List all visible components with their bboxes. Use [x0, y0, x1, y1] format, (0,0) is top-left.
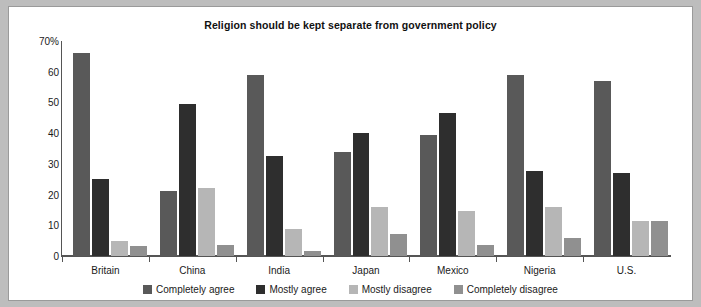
legend-swatch-icon [454, 285, 463, 294]
bar [371, 207, 388, 256]
legend-item[interactable]: Mostly agree [256, 284, 326, 295]
bar [613, 173, 630, 256]
x-axis-tick-mark [409, 256, 410, 262]
bar-group-bars [496, 41, 583, 256]
bar [420, 135, 437, 256]
legend-item[interactable]: Mostly disagree [349, 284, 432, 295]
bar [564, 238, 581, 256]
y-axis-tick-label: 30 [48, 158, 62, 169]
bar-group-bars [323, 41, 410, 256]
x-axis-category-label: Mexico [409, 265, 496, 276]
bar [285, 229, 302, 256]
bar-group-bars [583, 41, 670, 256]
y-axis-tick-label: 50 [48, 97, 62, 108]
legend-swatch-icon [256, 285, 265, 294]
bar [304, 251, 321, 256]
chart-title: Religion should be kept separate from go… [9, 19, 692, 31]
bar-group: Mexico [409, 41, 496, 256]
x-axis-category-label: India [236, 265, 323, 276]
legend-item[interactable]: Completely agree [143, 284, 234, 295]
bar [545, 207, 562, 256]
bar-group: Japan [323, 41, 410, 256]
bar [266, 156, 283, 256]
legend-label: Mostly agree [269, 284, 326, 295]
x-axis-category-label: China [149, 265, 236, 276]
bar-group: China [149, 41, 236, 256]
bar [390, 234, 407, 256]
bar [651, 221, 668, 256]
x-axis-tick-mark [62, 256, 63, 262]
legend-label: Completely agree [156, 284, 234, 295]
x-axis-tick-mark [236, 256, 237, 262]
bar-group-bars [62, 41, 149, 256]
bar [507, 75, 524, 256]
bar [160, 191, 177, 256]
x-axis-category-label: Japan [323, 265, 410, 276]
chart-legend: Completely agreeMostly agreeMostly disag… [9, 284, 692, 295]
bar [92, 179, 109, 256]
chart-figure: Religion should be kept separate from go… [9, 7, 692, 300]
x-axis-tick-mark [323, 256, 324, 262]
bar [439, 113, 456, 256]
y-axis-tick-label: 10 [48, 220, 62, 231]
bar [526, 171, 543, 256]
bar-group: Nigeria [496, 41, 583, 256]
y-axis-tick-label: 20 [48, 189, 62, 200]
bar [130, 246, 147, 256]
y-axis-tick-label: 60 [48, 66, 62, 77]
bar [217, 245, 234, 256]
bar [458, 211, 475, 256]
bar [477, 245, 494, 256]
bar-group-bars [409, 41, 496, 256]
x-axis-category-label: Britain [62, 265, 149, 276]
bar [179, 104, 196, 256]
x-axis-category-label: U.S. [583, 265, 670, 276]
bar [632, 221, 649, 256]
bar-group-bars [149, 41, 236, 256]
y-axis-tick-label: 70% [39, 36, 62, 47]
x-axis-tick-mark [149, 256, 150, 262]
y-axis-tick-label: 0 [53, 251, 62, 262]
bar [594, 81, 611, 256]
x-axis-tick-mark [496, 256, 497, 262]
legend-swatch-icon [349, 285, 358, 294]
bar [353, 133, 370, 256]
bar-group: Britain [62, 41, 149, 256]
y-axis-tick-label: 40 [48, 128, 62, 139]
plot-area: 70%6050403020100 BritainChinaIndiaJapanM… [62, 41, 670, 256]
x-axis-tick-mark [583, 256, 584, 262]
legend-swatch-icon [143, 285, 152, 294]
bar [198, 188, 215, 256]
x-axis-category-label: Nigeria [496, 265, 583, 276]
legend-item[interactable]: Completely disagree [454, 284, 558, 295]
bar [247, 75, 264, 256]
bar-group-bars [236, 41, 323, 256]
bar-group: U.S. [583, 41, 670, 256]
legend-label: Mostly disagree [362, 284, 432, 295]
bar [111, 241, 128, 256]
legend-label: Completely disagree [467, 284, 558, 295]
bar-group: India [236, 41, 323, 256]
bar [73, 53, 90, 256]
bar [334, 152, 351, 256]
